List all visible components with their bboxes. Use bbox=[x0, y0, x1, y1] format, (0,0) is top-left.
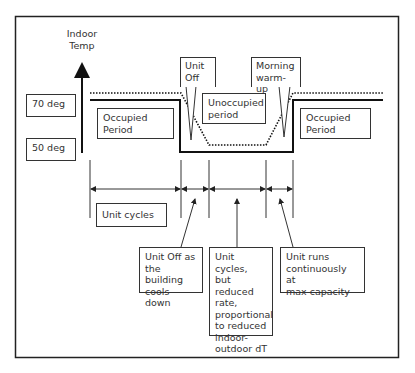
unit-off-callout: Unit Off bbox=[180, 57, 216, 87]
occupied-period-right-label: Occupied Period bbox=[300, 108, 371, 139]
note-unit-off-cooldown: Unit Off as the building cools down bbox=[139, 247, 203, 293]
diagram-graphics bbox=[0, 0, 415, 373]
diagram-canvas: Indoor Temp 70 deg 50 deg Occupied Perio… bbox=[0, 0, 415, 373]
unit-cycles-label: Unit cycles bbox=[96, 203, 167, 227]
unit-off-callout-tail bbox=[186, 86, 196, 140]
morning-warmup-callout-tail bbox=[279, 86, 290, 137]
unoccupied-period-label: Unoccupied period bbox=[202, 93, 266, 124]
note-leaders bbox=[181, 199, 293, 247]
morning-warmup-callout: Morning warm-up bbox=[251, 57, 301, 87]
occupied-period-left-label: Occupied Period bbox=[97, 108, 174, 139]
level-50-label: 50 deg bbox=[26, 138, 76, 161]
note-unit-runs-max: Unit runs continuously at max capacity bbox=[280, 247, 365, 293]
level-70-label: 70 deg bbox=[26, 94, 76, 117]
y-axis-label: Indoor Temp bbox=[61, 28, 103, 51]
note-unit-cycles-reduced: Unit cycles, but reduced rate, proportio… bbox=[209, 247, 273, 336]
